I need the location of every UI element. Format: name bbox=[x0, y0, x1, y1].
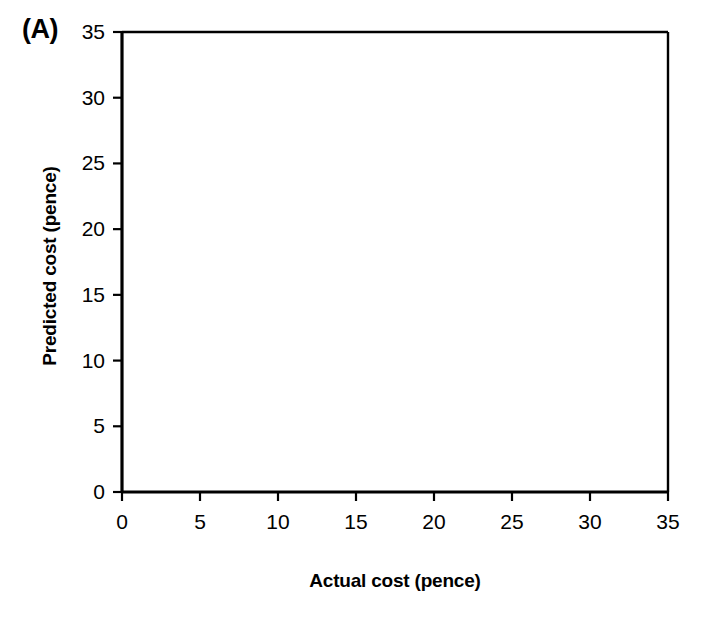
x-tick-label-30: 30 bbox=[560, 510, 620, 534]
y-tick-label-25: 25 bbox=[60, 151, 105, 175]
x-tick-label-15: 15 bbox=[326, 510, 386, 534]
x-tick-label-0: 0 bbox=[92, 510, 152, 534]
y-tick-label-30: 30 bbox=[60, 86, 105, 110]
y-tick-label-5: 5 bbox=[60, 414, 105, 438]
y-tick-label-0: 0 bbox=[60, 480, 105, 504]
x-tick-label-10: 10 bbox=[248, 510, 308, 534]
y-tick-label-10: 10 bbox=[60, 349, 105, 373]
y-tick-label-35: 35 bbox=[60, 20, 105, 44]
x-tick-label-25: 25 bbox=[482, 510, 542, 534]
axes-group bbox=[122, 32, 668, 492]
y-tick-label-15: 15 bbox=[60, 283, 105, 307]
x-tick-label-20: 20 bbox=[404, 510, 464, 534]
y-tick-label-20: 20 bbox=[60, 217, 105, 241]
x-tick-label-35: 35 bbox=[638, 510, 698, 534]
figure-panel-a: (A) Predicted cost (pence) Actual cost (… bbox=[0, 0, 703, 626]
x-tick-label-5: 5 bbox=[170, 510, 230, 534]
ticks-group bbox=[113, 32, 668, 501]
